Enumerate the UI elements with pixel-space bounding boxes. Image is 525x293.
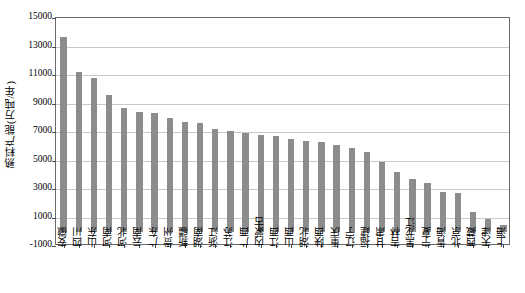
x-tick-label: 安徽 [58, 227, 68, 247]
bar [167, 118, 173, 232]
bar [333, 145, 339, 232]
y-tick-label: 5000 [18, 155, 52, 165]
x-tick-label: 广西 [240, 227, 250, 247]
x-tick-label: 北京 [452, 227, 462, 247]
x-tick-label: 湖北 [300, 227, 310, 247]
x-tick-label: 天津 [482, 227, 492, 247]
bar [136, 112, 142, 232]
x-tick-label: 四川 [73, 227, 83, 247]
x-axis-tick-labels: 安徽四川山东河南河北云南广东贵州新疆湖南浙江江苏广西内蒙古江西山西湖北陕西重庆辽… [55, 247, 510, 293]
x-tick-label: 青海 [437, 227, 447, 247]
y-tick-label: -1000 [18, 240, 52, 250]
bar [288, 139, 294, 232]
bar [212, 129, 218, 232]
bars-container [56, 18, 509, 244]
x-tick-label: 内蒙古 [255, 217, 265, 247]
x-tick-label: 黑龙江 [406, 217, 416, 247]
bar [379, 162, 385, 232]
y-tick-mark [52, 161, 56, 162]
bar [227, 131, 233, 232]
bar [364, 152, 370, 232]
bar [106, 95, 112, 232]
x-tick-label: 宁夏 [422, 227, 432, 247]
x-tick-label: 福建 [361, 227, 371, 247]
bar [349, 148, 355, 232]
bar [76, 72, 82, 232]
bar [424, 183, 430, 231]
bar [273, 136, 279, 231]
y-tick-mark [52, 18, 56, 19]
x-tick-label: 甘肃 [376, 227, 386, 247]
x-tick-label: 贵州 [164, 227, 174, 247]
x-tick-label: 西藏 [467, 227, 477, 247]
x-tick-label: 湖南 [194, 227, 204, 247]
bar [394, 172, 400, 232]
bar [60, 37, 66, 232]
y-tick-mark [52, 104, 56, 105]
x-tick-label: 河南 [103, 227, 113, 247]
y-tick-label: 7000 [18, 126, 52, 136]
x-tick-label: 辽宁 [346, 227, 356, 247]
x-tick-label: 江苏 [224, 227, 234, 247]
x-tick-label: 陕西 [315, 227, 325, 247]
y-tick-label: 13000 [18, 41, 52, 51]
x-tick-label: 河北 [118, 227, 128, 247]
y-axis-tick-labels: -100010003000500070009000110001300015000 [18, 0, 52, 293]
y-tick-mark [52, 75, 56, 76]
bar [121, 108, 127, 232]
y-tick-label: 9000 [18, 98, 52, 108]
bar [242, 133, 248, 231]
bar-chart: 熟料产能(万吨/年) -1000100030005000700090001100… [0, 0, 525, 293]
x-tick-label: 江西 [270, 227, 280, 247]
x-tick-label: 重庆 [331, 227, 341, 247]
y-tick-label: 11000 [18, 69, 52, 79]
y-tick-mark [52, 218, 56, 219]
y-tick-label: 15000 [18, 12, 52, 22]
bar [91, 78, 97, 232]
x-tick-label: 山西 [285, 227, 295, 247]
y-tick-label: 1000 [18, 212, 52, 222]
y-tick-label: 3000 [18, 183, 52, 193]
bar [440, 192, 446, 232]
plot-area [55, 17, 510, 245]
x-tick-label: 吉林 [391, 227, 401, 247]
x-tick-label: 新疆 [179, 227, 189, 247]
y-tick-mark [52, 189, 56, 190]
x-tick-label: 广东 [149, 227, 159, 247]
x-tick-label: 浙江 [209, 227, 219, 247]
bar [182, 122, 188, 232]
bar [318, 142, 324, 232]
bar [303, 141, 309, 232]
y-tick-mark [52, 132, 56, 133]
y-tick-mark [52, 47, 56, 48]
x-tick-label: 山东 [88, 227, 98, 247]
y-axis-title-text: 熟料产能(万吨/年) [6, 81, 17, 168]
x-tick-label: 上海 [497, 227, 507, 247]
bar [455, 193, 461, 231]
bar [151, 113, 157, 231]
x-tick-label: 云南 [133, 227, 143, 247]
bar [197, 123, 203, 231]
